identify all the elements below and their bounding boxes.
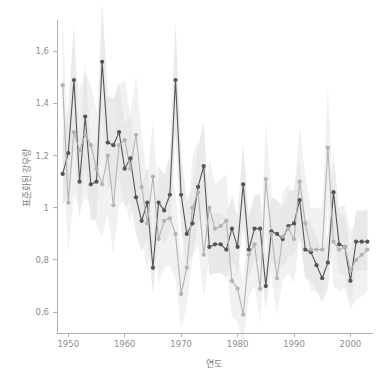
data-point bbox=[247, 253, 251, 257]
data-point bbox=[241, 313, 245, 317]
data-point bbox=[320, 276, 324, 280]
rainfall-line-chart: 195019601970198019902000 0,60,811,21,41,… bbox=[0, 0, 392, 378]
data-point bbox=[128, 167, 132, 171]
data-point bbox=[241, 182, 245, 186]
data-point bbox=[269, 232, 273, 236]
data-point bbox=[111, 143, 115, 147]
data-point bbox=[61, 172, 65, 176]
data-point bbox=[230, 279, 234, 283]
data-point bbox=[224, 219, 228, 223]
data-point bbox=[235, 287, 239, 291]
data-point bbox=[89, 182, 93, 186]
data-point bbox=[156, 237, 160, 241]
x-tick-label: 1990 bbox=[283, 339, 305, 349]
y-tick-label: 1,6 bbox=[35, 46, 49, 56]
data-point bbox=[354, 258, 358, 262]
data-point bbox=[156, 200, 160, 204]
data-point bbox=[117, 143, 121, 147]
data-point bbox=[140, 185, 144, 189]
data-point bbox=[247, 247, 251, 251]
data-point bbox=[100, 182, 104, 186]
data-point bbox=[66, 151, 70, 155]
data-point bbox=[123, 138, 127, 142]
data-point bbox=[360, 240, 364, 244]
data-point bbox=[140, 219, 144, 223]
data-point bbox=[213, 227, 217, 231]
data-point bbox=[134, 195, 138, 199]
data-point bbox=[258, 287, 262, 291]
data-point bbox=[106, 154, 110, 158]
data-point bbox=[303, 247, 307, 251]
x-tick-label: 2000 bbox=[340, 339, 362, 349]
data-point bbox=[252, 242, 256, 246]
data-point bbox=[106, 140, 110, 144]
data-point bbox=[162, 208, 166, 212]
data-point bbox=[264, 284, 268, 288]
data-point bbox=[77, 148, 81, 152]
data-point bbox=[94, 180, 98, 184]
data-point bbox=[348, 268, 352, 272]
x-axis-title: 연도 bbox=[206, 359, 222, 369]
data-point bbox=[145, 221, 149, 225]
data-point bbox=[326, 260, 330, 264]
data-point bbox=[89, 143, 93, 147]
y-tick-label: 1,2 bbox=[35, 151, 49, 161]
data-point bbox=[117, 130, 121, 134]
data-point bbox=[207, 245, 211, 249]
data-point bbox=[123, 167, 127, 171]
data-point bbox=[83, 114, 87, 118]
data-point bbox=[145, 200, 149, 204]
chart-figure: 195019601970198019902000 0,60,811,21,41,… bbox=[0, 0, 392, 378]
data-point bbox=[365, 247, 369, 251]
data-point bbox=[128, 156, 132, 160]
data-point bbox=[281, 234, 285, 238]
data-point bbox=[314, 263, 318, 267]
data-point bbox=[77, 180, 81, 184]
data-point bbox=[219, 242, 223, 246]
data-point bbox=[185, 266, 189, 270]
data-point bbox=[224, 247, 228, 251]
data-point bbox=[185, 232, 189, 236]
data-point bbox=[343, 245, 347, 249]
data-point bbox=[151, 174, 155, 178]
data-point bbox=[61, 83, 65, 87]
data-point bbox=[72, 130, 76, 134]
data-point bbox=[354, 240, 358, 244]
data-point bbox=[292, 221, 296, 225]
data-point bbox=[173, 78, 177, 82]
data-point bbox=[314, 247, 318, 251]
data-point bbox=[134, 133, 138, 137]
data-point bbox=[258, 227, 262, 231]
data-point bbox=[196, 190, 200, 194]
y-axis-ticks: 0,60,811,21,41,6 bbox=[35, 46, 57, 317]
data-point bbox=[94, 167, 98, 171]
data-point bbox=[365, 240, 369, 244]
data-point bbox=[168, 193, 172, 197]
y-tick-label: 1 bbox=[44, 203, 49, 213]
data-point bbox=[298, 180, 302, 184]
data-point bbox=[162, 219, 166, 223]
data-point bbox=[331, 240, 335, 244]
data-point bbox=[286, 227, 290, 231]
confidence-bands bbox=[63, 2, 368, 346]
y-tick-label: 0,6 bbox=[35, 307, 49, 317]
data-point bbox=[309, 247, 313, 251]
data-point bbox=[360, 253, 364, 257]
data-point bbox=[179, 292, 183, 296]
x-tick-label: 1970 bbox=[170, 339, 192, 349]
data-point bbox=[337, 247, 341, 251]
data-point bbox=[72, 78, 76, 82]
data-point bbox=[292, 237, 296, 241]
data-point bbox=[202, 164, 206, 168]
data-point bbox=[202, 253, 206, 257]
data-point bbox=[348, 279, 352, 283]
x-tick-label: 1960 bbox=[114, 339, 136, 349]
x-tick-label: 1950 bbox=[57, 339, 79, 349]
data-point bbox=[264, 177, 268, 181]
data-point bbox=[190, 221, 194, 225]
data-point bbox=[207, 206, 211, 210]
data-point bbox=[252, 227, 256, 231]
data-point bbox=[111, 203, 115, 207]
data-point bbox=[230, 227, 234, 231]
data-point bbox=[213, 242, 217, 246]
